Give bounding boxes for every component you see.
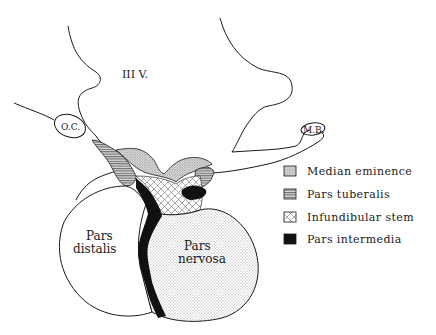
legend-item-pars-tuberalis: Pars tuberalis [284, 188, 390, 201]
optic-chiasm-label: O.C. [61, 122, 80, 132]
posterior-boundary-line [232, 130, 310, 152]
legend-item-pars-intermedia: Pars intermedia [284, 233, 402, 246]
infundibular-stem-swatch-icon [284, 212, 296, 222]
median-eminence-swatch-icon [284, 166, 296, 176]
pars-distalis-label-1: Pars [86, 229, 113, 243]
pars-tuberalis-anterior [92, 140, 136, 186]
pars-intermedia-swatch-icon [284, 234, 296, 244]
pituitary-diagram: III V. O.C. M.B. Pars distalis Pars nerv… [0, 0, 436, 335]
legend-label: Pars tuberalis [307, 188, 390, 201]
legend-label: Infundibular stem [307, 211, 414, 224]
legend-item-infundibular-stem: Infundibular stem [284, 211, 414, 224]
legend: Median eminence Pars tuberalis Infundibu… [284, 165, 414, 246]
pars-nervosa-label-1: Pars [184, 239, 211, 253]
anterior-boundary-line [14, 103, 54, 120]
third-ventricle-label: III V. [122, 68, 148, 81]
legend-label: Pars intermedia [307, 233, 402, 246]
legend-label: Median eminence [307, 165, 412, 178]
legend-item-median-eminence: Median eminence [284, 165, 412, 178]
third-ventricle-right-wall [220, 18, 292, 152]
pars-distalis-label-2: distalis [73, 242, 117, 256]
pars-tuberalis-swatch-icon [284, 189, 296, 199]
pars-nervosa-label-2: nervosa [178, 252, 226, 266]
mammillary-body-label: M.B. [303, 125, 325, 135]
